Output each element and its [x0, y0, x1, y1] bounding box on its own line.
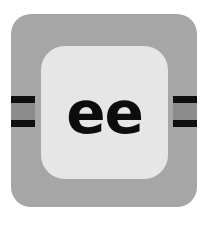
card-label: ee: [41, 46, 168, 179]
left-connector-top-stripe: [11, 96, 35, 103]
right-connector-top-stripe: [173, 96, 197, 103]
left-connector-bottom-stripe: [11, 120, 35, 127]
right-connector-bottom-stripe: [173, 120, 197, 127]
